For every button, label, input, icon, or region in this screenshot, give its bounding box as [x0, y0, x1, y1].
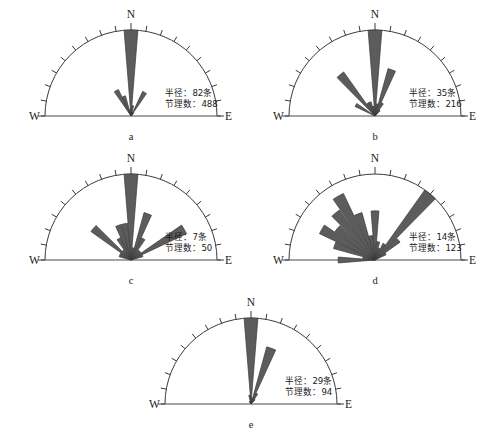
radius-stat-label: 半径：82条	[165, 87, 212, 98]
rose-tick	[305, 201, 309, 205]
east-label: E	[469, 254, 476, 266]
rose-tick	[418, 37, 421, 42]
panel-letter-a: a	[129, 131, 134, 142]
radius-stat-label: 半径：14条	[409, 231, 456, 242]
rose-tick	[115, 26, 116, 31]
rose-tick	[100, 174, 102, 179]
north-label: N	[127, 8, 136, 20]
rose-tick	[390, 26, 391, 31]
rose-tick	[45, 85, 50, 87]
rose-tick	[212, 85, 217, 87]
rose-tick	[41, 244, 46, 245]
count-stat-label: 节理数：488	[165, 98, 217, 109]
north-label: N	[127, 152, 136, 164]
rose-tick	[172, 358, 177, 361]
rose-tick	[294, 325, 297, 330]
east-label: E	[345, 398, 352, 410]
rose-tick	[100, 30, 102, 35]
rose-tick	[404, 30, 406, 35]
east-label: E	[225, 254, 232, 266]
rose-tick	[441, 201, 445, 205]
rose-tick	[205, 325, 208, 330]
rose-diagram-figure: NWE半径：82条节理数：488aNWE半径：35条节理数：216bNWE半径：…	[0, 0, 501, 439]
rose-tick	[181, 345, 185, 349]
rose-tick	[205, 70, 210, 73]
count-stat-label: 节理数：94	[285, 386, 332, 397]
rose-tick	[317, 345, 321, 349]
rose-tick	[456, 229, 461, 231]
rose-tick	[174, 181, 177, 186]
rose-tick	[359, 170, 360, 175]
rose-tick	[72, 190, 76, 194]
rose-tick	[61, 57, 65, 61]
rose-tick	[216, 244, 221, 245]
rose-tick	[441, 57, 445, 61]
rose-panel-b: NWE半径：35条节理数：216b	[262, 8, 492, 148]
west-label: W	[29, 254, 40, 266]
west-label: W	[149, 398, 160, 410]
rose-tick	[174, 37, 177, 42]
rose-tick	[52, 70, 57, 73]
rose-petal	[114, 89, 131, 116]
rose-tick	[430, 190, 434, 194]
rose-tick	[329, 181, 332, 186]
panel-letter-b: b	[372, 131, 377, 142]
radius-stat-label: 半径：7条	[165, 231, 206, 242]
rose-tick	[85, 37, 88, 42]
rose-tick	[285, 100, 290, 101]
rose-tick	[197, 57, 201, 61]
rose-tick	[192, 334, 196, 338]
east-label: E	[225, 110, 232, 122]
north-label: N	[371, 152, 380, 164]
rose-tick	[336, 388, 341, 389]
rose-tick	[285, 244, 290, 245]
rose-tick	[146, 170, 147, 175]
rose-tick	[449, 214, 454, 217]
rose-tick	[344, 174, 346, 179]
rose-tick	[296, 214, 301, 217]
west-label: W	[273, 110, 284, 122]
rose-tick	[160, 174, 162, 179]
rose-tick	[280, 318, 282, 323]
rose-panel-d: NWE半径：14条节理数：123d	[262, 152, 492, 292]
count-stat-label: 节理数：50	[165, 242, 212, 253]
rose-panel-e: NWE半径：29条节理数：94e	[138, 296, 368, 436]
rose-tick	[205, 214, 210, 217]
rose-tick	[61, 201, 65, 205]
rose-tick	[316, 190, 320, 194]
rose-tick	[165, 373, 170, 375]
rose-tick	[212, 229, 217, 231]
panel-letter-c: c	[129, 275, 134, 286]
radius-stat-label: 半径：29条	[285, 375, 332, 386]
rose-tick	[85, 181, 88, 186]
rose-panel-a: NWE半径：82条节理数：488a	[18, 8, 248, 148]
rose-tick	[325, 358, 330, 361]
west-label: W	[29, 110, 40, 122]
rose-tick	[306, 334, 310, 338]
rose-tick	[220, 318, 222, 323]
rose-tick	[186, 190, 190, 194]
radius-stat-label: 半径：35条	[409, 87, 456, 98]
rose-tick	[344, 30, 346, 35]
rose-tick	[404, 174, 406, 179]
rose-tick	[45, 229, 50, 231]
rose-tick	[72, 46, 76, 50]
rose-tick	[115, 170, 116, 175]
rose-tick	[186, 46, 190, 50]
rose-tick	[332, 373, 337, 375]
panel-letter-e: e	[249, 419, 254, 430]
rose-tick	[296, 70, 301, 73]
count-stat-label: 节理数：123	[409, 242, 461, 253]
rose-petal	[337, 72, 375, 116]
rose-tick	[329, 37, 332, 42]
count-stat-label: 节理数：216	[409, 98, 461, 109]
rose-tick	[430, 46, 434, 50]
west-label: W	[273, 254, 284, 266]
rose-tick	[418, 181, 421, 186]
rose-tick	[305, 57, 309, 61]
rose-tick	[235, 314, 236, 319]
rose-tick	[52, 214, 57, 217]
rose-tick	[456, 85, 461, 87]
rose-panel-c: NWE半径：7条节理数：50c	[18, 152, 248, 292]
rose-tick	[390, 170, 391, 175]
